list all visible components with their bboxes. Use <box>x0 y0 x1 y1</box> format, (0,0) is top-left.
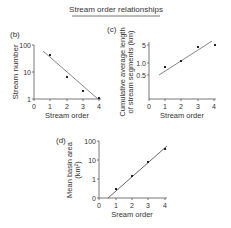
panel-c: (c) Cumulative average length of stream … <box>107 25 216 120</box>
panel-b-xtick: 0 <box>32 103 36 110</box>
panel-c-ylabel-line2: of stream segments (km) <box>126 30 135 113</box>
data-point <box>164 148 166 150</box>
panel-c-xtick: 3 <box>196 103 200 110</box>
panel-d-ylabel-line2: (km²) <box>73 161 82 179</box>
data-point <box>147 161 149 163</box>
data-point <box>115 188 117 190</box>
data-point <box>49 54 51 56</box>
panel-d-xtick: 3 <box>146 202 150 209</box>
panel-b-ytick: 1 <box>27 96 31 103</box>
panel-b-ylabel: Stream number <box>11 44 20 99</box>
panel-d: (d) Mean basin area (km²) 100 10 1 0 0 1… <box>56 136 167 219</box>
data-point <box>66 76 68 78</box>
panel-d-ytick: 1 <box>92 176 96 183</box>
data-point <box>82 90 84 92</box>
data-point <box>180 60 182 62</box>
panel-c-fit-line <box>159 41 212 75</box>
panel-d-xtick: 4 <box>163 202 167 209</box>
panel-b-xtick: 3 <box>81 103 85 110</box>
panel-c-ytick: 5 <box>142 42 146 49</box>
panel-b-ytick: 10 <box>23 69 31 76</box>
panel-b: (b) Stream number 100 10 1 0 1 2 3 4 Str… <box>10 30 101 120</box>
panel-c-xlabel: Stream order <box>160 111 204 120</box>
data-point <box>98 97 100 99</box>
stream-order-figure: Stream order relationships (b) Stream nu… <box>0 0 231 228</box>
panel-d-fit-line <box>108 146 167 198</box>
panel-c-ytick: 0.5 <box>136 72 146 79</box>
data-point <box>131 175 133 177</box>
panel-b-xlabel: Stream order <box>45 111 89 120</box>
panel-b-xtick: 4 <box>97 103 101 110</box>
data-point <box>197 46 199 48</box>
data-point <box>164 66 166 68</box>
panel-c-xtick: 0 <box>147 103 151 110</box>
panel-d-xtick: 0 <box>97 202 101 209</box>
panel-c-xtick: 1 <box>163 103 167 110</box>
panel-d-xtick: 1 <box>114 202 118 209</box>
panel-b-label: (b) <box>10 30 20 39</box>
panel-d-ytick: 10 <box>88 157 96 164</box>
panel-c-xtick: 4 <box>212 103 216 110</box>
figure-title: Stream order relationships <box>69 5 163 14</box>
panel-d-xlabel: Sream order <box>111 210 153 219</box>
panel-d-xtick: 2 <box>130 202 134 209</box>
panel-d-ytick: 0 <box>92 195 96 202</box>
panel-c-label: (c) <box>107 25 117 34</box>
panel-b-xtick: 1 <box>48 103 52 110</box>
panel-c-ytick: 1.0 <box>136 60 146 67</box>
panel-d-ytick: 100 <box>84 138 96 145</box>
data-point <box>214 44 216 46</box>
panel-b-fit-line <box>43 51 98 99</box>
panel-c-xtick: 2 <box>179 103 183 110</box>
panel-b-ytick: 100 <box>19 42 31 49</box>
panel-b-xtick: 2 <box>65 103 69 110</box>
